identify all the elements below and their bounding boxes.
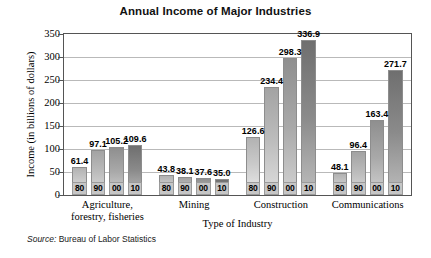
category-label-line: Communications: [313, 199, 423, 211]
bar-value-label: 298.3: [274, 48, 306, 57]
source-note: Source: Bureau of Labor Statistics: [27, 234, 156, 244]
bar-year-label: 00: [370, 182, 385, 195]
gridline: [64, 80, 411, 81]
bar-year-label: 90: [178, 182, 193, 195]
bar-value-label: 35.0: [206, 169, 238, 178]
bar-year-label: 80: [159, 182, 174, 195]
bar-year-label: 00: [196, 182, 211, 195]
gridline: [64, 57, 411, 58]
bar-value-label: 61.4: [64, 157, 96, 166]
bar: [388, 70, 403, 195]
category-label: Communications: [313, 199, 423, 211]
gridline: [64, 103, 411, 104]
bar-value-label: 48.1: [324, 163, 356, 172]
bar-year-label: 00: [283, 182, 298, 195]
bar-year-label: 90: [351, 182, 366, 195]
y-tick-label: 100: [30, 144, 60, 155]
bar-year-label: 90: [264, 182, 279, 195]
bar-year-label: 10: [215, 182, 230, 195]
y-tick-label: 250: [30, 75, 60, 86]
chart-title: Annual Income of Major Industries: [0, 5, 431, 17]
y-tick-label: 150: [30, 121, 60, 132]
bar-year-label: 80: [333, 182, 348, 195]
bar-chart-figure: Annual Income of Major Industries Income…: [0, 0, 431, 258]
bar-year-label: 10: [128, 182, 143, 195]
y-tick-label: 300: [30, 52, 60, 63]
bar-value-label: 234.4: [256, 77, 288, 86]
bar-year-label: 10: [388, 182, 403, 195]
bar-year-label: 10: [301, 182, 316, 195]
y-tick-label: 50: [30, 167, 60, 178]
bar: [264, 87, 279, 195]
y-tick-label: 350: [30, 29, 60, 40]
source-body: Bureau of Labor Statistics: [59, 234, 156, 244]
bar-value-label: 126.6: [237, 127, 269, 136]
bar-value-label: 163.4: [361, 110, 393, 119]
bar-year-label: 90: [91, 182, 106, 195]
bar-year-label: 80: [246, 182, 261, 195]
bar-value-label: 271.7: [379, 60, 411, 69]
bar-year-label: 80: [72, 182, 87, 195]
bar-value-label: 109.6: [119, 135, 151, 144]
x-axis-title: Type of Industry: [63, 218, 412, 229]
y-tick-label: 200: [30, 98, 60, 109]
bar-value-label: 336.9: [293, 30, 325, 39]
bar-value-label: 96.4: [342, 141, 374, 150]
bar: [301, 40, 316, 195]
source-prefix: Source:: [27, 234, 56, 244]
bar-year-label: 00: [109, 182, 124, 195]
